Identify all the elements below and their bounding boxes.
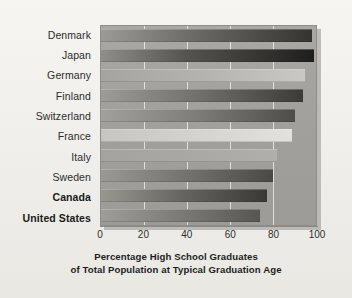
bar bbox=[101, 69, 305, 82]
x-axis-tick-label: 100 bbox=[309, 229, 326, 240]
caption-line-2: of Total Population at Typical Graduatio… bbox=[0, 263, 352, 276]
y-axis-label: France bbox=[8, 126, 96, 146]
bars-group bbox=[101, 26, 316, 225]
caption-line-1: Percentage High School Graduates bbox=[0, 250, 352, 263]
bar-row bbox=[101, 26, 316, 46]
y-axis-labels: DenmarkJapanGermanyFinlandSwitzerlandFra… bbox=[8, 25, 96, 228]
x-axis-tick-label: 80 bbox=[268, 229, 279, 240]
x-axis-tick-label: 20 bbox=[138, 229, 149, 240]
y-axis-label: Finland bbox=[8, 86, 96, 106]
bar bbox=[101, 189, 267, 202]
bar bbox=[101, 109, 295, 122]
bar-row bbox=[101, 106, 316, 126]
bar-row bbox=[101, 185, 316, 205]
bar bbox=[101, 149, 277, 162]
bar-row bbox=[101, 86, 316, 106]
bar-row bbox=[101, 66, 316, 86]
y-axis-label: Japan bbox=[8, 45, 96, 65]
bar bbox=[101, 89, 303, 102]
bar-row bbox=[101, 205, 316, 225]
chart-caption: Percentage High School Graduates of Tota… bbox=[0, 250, 352, 276]
bar-row bbox=[101, 165, 316, 185]
y-axis-label: Italy bbox=[8, 147, 96, 167]
x-axis-tick-label: 40 bbox=[181, 229, 192, 240]
bar bbox=[101, 29, 312, 42]
y-axis-label: Denmark bbox=[8, 25, 96, 45]
bar-chart: DenmarkJapanGermanyFinlandSwitzerlandFra… bbox=[0, 0, 352, 298]
figure: DenmarkJapanGermanyFinlandSwitzerlandFra… bbox=[0, 0, 352, 298]
y-axis-label: Germany bbox=[8, 66, 96, 86]
bar-row bbox=[101, 126, 316, 146]
y-axis-label: Canada bbox=[8, 187, 96, 207]
y-axis-label: Sweden bbox=[8, 167, 96, 187]
bar bbox=[101, 49, 314, 62]
x-axis-tick-label: 60 bbox=[225, 229, 236, 240]
bar bbox=[101, 169, 273, 182]
bar-row bbox=[101, 145, 316, 165]
bar bbox=[101, 129, 292, 142]
x-axis-tick-label: 0 bbox=[97, 229, 103, 240]
bar-row bbox=[101, 46, 316, 66]
bar bbox=[101, 209, 260, 222]
plot-panel bbox=[100, 25, 317, 226]
y-axis-label: Switzerland bbox=[8, 106, 96, 126]
y-axis-label: United States bbox=[8, 208, 96, 228]
x-axis-labels: 020406080100 bbox=[100, 229, 317, 243]
x-axis-line bbox=[100, 226, 318, 227]
